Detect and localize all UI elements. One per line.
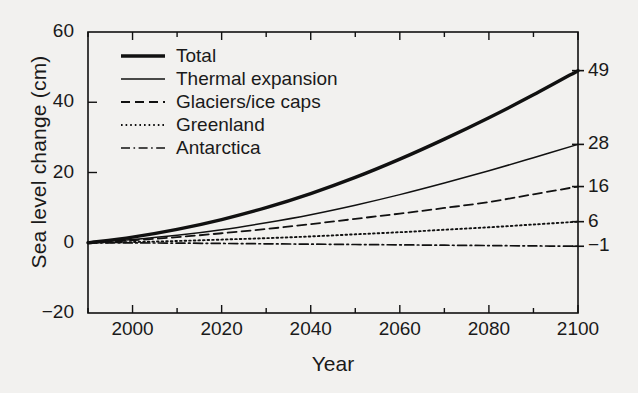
series-line-thermal-expansion xyxy=(88,144,578,242)
legend-item-label: Antarctica xyxy=(176,137,260,159)
legend-item-label: Greenland xyxy=(176,114,265,136)
chart-legend: TotalThermal expansionGlaciers/ice capsG… xyxy=(120,44,338,159)
legend-item: Glaciers/ice caps xyxy=(120,90,338,113)
y-tick-label: 40 xyxy=(14,90,74,112)
legend-item-label: Thermal expansion xyxy=(176,68,338,90)
legend-item: Antarctica xyxy=(120,136,338,159)
legend-item: Thermal expansion xyxy=(120,67,338,90)
series-line-glaciers-ice-caps xyxy=(88,187,578,243)
x-tick-label: 2100 xyxy=(538,318,618,340)
x-tick-label: 2080 xyxy=(449,318,529,340)
legend-line-sample-icon xyxy=(120,116,166,134)
y-tick-label: 60 xyxy=(14,20,74,42)
endpoint-label: 49 xyxy=(588,59,609,81)
legend-item-label: Total xyxy=(176,45,216,67)
x-tick-label: 2060 xyxy=(360,318,440,340)
x-tick-label: 2040 xyxy=(271,318,351,340)
legend-item: Total xyxy=(120,44,338,67)
y-tick-label: −20 xyxy=(14,301,74,323)
sea-level-change-chart: Sea level change (cm) Year −200204060 20… xyxy=(0,0,638,393)
y-tick-label: 20 xyxy=(14,161,74,183)
endpoint-label: 16 xyxy=(588,175,609,197)
x-tick-label: 2000 xyxy=(93,318,173,340)
y-tick-label: 0 xyxy=(14,231,74,253)
legend-item-label: Glaciers/ice caps xyxy=(176,91,321,113)
legend-line-sample-icon xyxy=(120,93,166,111)
endpoint-label: 6 xyxy=(588,210,599,232)
legend-line-sample-icon xyxy=(120,70,166,88)
legend-item: Greenland xyxy=(120,113,338,136)
endpoint-label: 28 xyxy=(588,132,609,154)
legend-line-sample-icon xyxy=(120,139,166,157)
series-line-antarctica xyxy=(88,243,578,247)
x-axis-title: Year xyxy=(88,352,578,376)
legend-line-sample-icon xyxy=(120,47,166,65)
x-tick-label: 2020 xyxy=(182,318,262,340)
endpoint-label: −1 xyxy=(588,234,610,256)
